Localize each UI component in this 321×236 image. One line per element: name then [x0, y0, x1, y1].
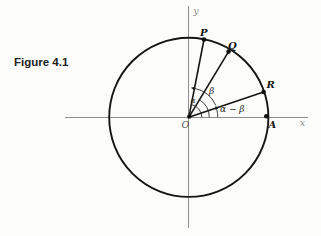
point-a-label: A [268, 119, 277, 130]
arc-arrowhead-top-icon [191, 87, 195, 90]
x-axis-label: x [300, 118, 305, 128]
beta-label: β [208, 86, 214, 96]
point-r-label: R [266, 79, 275, 90]
origin-label: O [182, 119, 190, 130]
y-axis-label: y [193, 6, 200, 16]
figure-caption: Figure 4.1 [14, 56, 69, 68]
circle-diagram-svg: Figure 4.1 x y P Q R A O α β [0, 0, 321, 236]
figure-4-1-diagram: Figure 4.1 x y P Q R A O α β [0, 0, 321, 236]
point-q-label: Q [228, 40, 237, 51]
alpha-minus-beta-arc [217, 109, 218, 117]
beta-arc [199, 100, 209, 118]
alpha-label: α [191, 96, 196, 105]
point-a-dot [264, 114, 269, 119]
point-r-dot [261, 90, 266, 95]
alpha-minus-beta-label: α − β [220, 104, 245, 114]
point-p-label: P [199, 27, 208, 38]
